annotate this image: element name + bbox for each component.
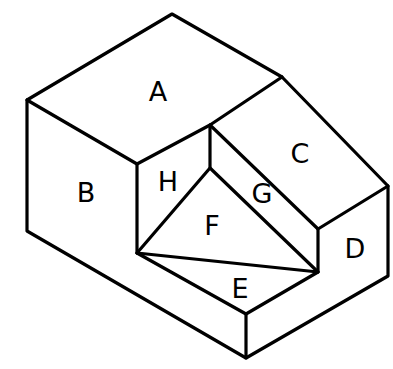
label-e: E (231, 273, 248, 304)
label-g: G (252, 178, 273, 209)
label-c: C (291, 138, 310, 169)
label-b: B (77, 177, 96, 208)
label-h: H (158, 166, 178, 197)
label-d: D (345, 233, 366, 264)
face-labels: A B C D E F G H (77, 76, 366, 304)
label-a: A (149, 76, 168, 107)
isometric-block-diagram: A B C D E F G H (0, 0, 393, 369)
label-f: F (204, 210, 220, 241)
